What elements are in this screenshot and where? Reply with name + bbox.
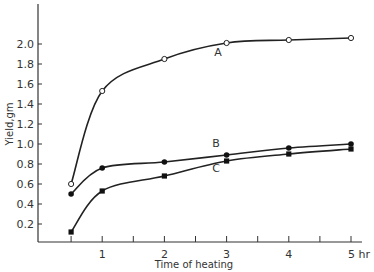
filled-circle-marker <box>162 159 168 165</box>
y-tick-label: 1.4 <box>17 98 35 111</box>
open-circle-marker <box>69 181 74 186</box>
filled-square-marker <box>286 151 291 156</box>
series-line <box>71 149 351 232</box>
filled-circle-marker <box>286 145 292 151</box>
series-group: ABC <box>68 35 354 234</box>
series-label-b: B <box>212 137 220 150</box>
chart: 0.20.40.60.81.01.21.41.61.82.0 12345 hr … <box>0 0 374 272</box>
x-axis-title: Time of heating <box>154 259 233 270</box>
y-tick-label: 1.6 <box>17 78 35 91</box>
filled-square-marker <box>348 146 353 151</box>
y-tick-label: 1.8 <box>17 58 35 71</box>
y-tick-label: 0.8 <box>17 158 35 171</box>
y-tick-label: 1.2 <box>17 118 35 131</box>
open-circle-marker <box>100 88 105 93</box>
x-tick-label: 4 <box>285 248 292 261</box>
filled-square-marker <box>69 229 74 234</box>
x-ticks: 12345 hr <box>71 236 370 261</box>
series-label-c: C <box>212 162 220 175</box>
series-b: B <box>68 137 354 197</box>
series-line <box>71 38 351 184</box>
y-tick-label: 0.4 <box>17 198 35 211</box>
y-tick-label: 0.2 <box>17 218 35 231</box>
open-circle-marker <box>348 35 353 40</box>
series-label-a: A <box>214 46 222 59</box>
filled-circle-marker <box>99 165 105 171</box>
y-tick-label: 2.0 <box>17 38 35 51</box>
filled-circle-marker <box>348 141 354 147</box>
open-circle-marker <box>162 56 167 61</box>
filled-square-marker <box>162 173 167 178</box>
y-tick-label: 1.0 <box>17 138 35 151</box>
open-circle-marker <box>286 37 291 42</box>
open-circle-marker <box>224 40 229 45</box>
x-tick-label: 5 hr <box>348 248 370 261</box>
filled-square-marker <box>100 188 105 193</box>
filled-square-marker <box>224 158 229 163</box>
series-c: C <box>69 146 354 234</box>
y-tick-label: 0.6 <box>17 178 35 191</box>
filled-circle-marker <box>68 191 74 197</box>
x-tick-label: 1 <box>99 248 106 261</box>
filled-circle-marker <box>224 152 230 158</box>
y-axis-title: Yield,gm <box>4 102 15 146</box>
